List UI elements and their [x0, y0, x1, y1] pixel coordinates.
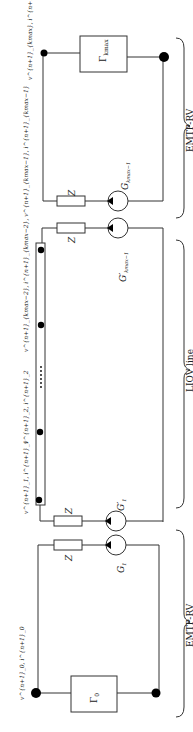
impedance-liov-bottom [54, 516, 82, 526]
node-label-liov-2: v^{n+1}_2, i^{n+1}_2 [22, 370, 30, 444]
bottom-emtp-circuit [38, 535, 159, 712]
node-liov-kmax2 [38, 322, 44, 328]
node-liov-1 [36, 497, 42, 503]
ellipsis-dots [40, 366, 42, 388]
node-label-liov-end: v^{n+1}_{kmax−2}, i^{n+1}_{kmax−2}, v^{n… [22, 85, 30, 352]
impedance-bottom [54, 540, 82, 550]
gamma-kmax-label: Γkmax [98, 39, 109, 62]
gamma-0-label: Γ0 [89, 693, 100, 703]
liov-circuit [36, 218, 163, 531]
source-label-liov-top: G′kmax−1 [118, 252, 129, 282]
z-label-top: Z [67, 189, 77, 197]
source-label-liov-bottom: G′1 [116, 499, 127, 511]
node-liov-2 [37, 429, 43, 435]
impedance-top [57, 196, 85, 206]
source-label-bottom: G1 [116, 563, 127, 573]
node-label-top: v^{n+1}_{kmax}, i^{n+1}_{kmax} [26, 0, 34, 80]
node-label-liov-1: v^{n+1}_1, i^{n+1}_1 [22, 441, 30, 515]
node-top-left [41, 50, 48, 57]
z-label-liov-bottom: Z [64, 507, 74, 515]
section-label-middle: LIOV line [185, 349, 193, 392]
node-top-right [159, 52, 169, 62]
section-label-bottom: EMTP-RV [185, 603, 193, 647]
node-liov-kmax1 [38, 247, 44, 253]
z-label-liov-top: Z [67, 236, 77, 244]
circuit-diagram: Γkmax Γ0 Z Z Z Z Gkmax−1 G′kmax−1 G′1 G1… [0, 0, 193, 732]
source-label-top: Gkmax−1 [120, 162, 131, 190]
node-label-bottom: v^{n+1}_0, i^{n+1}_0 [18, 626, 26, 700]
impedance-liov-top [57, 223, 85, 233]
z-label-bottom: Z [64, 554, 74, 562]
section-label-top: EMTP-RV [185, 108, 193, 152]
node-bottom-right [152, 689, 161, 698]
liov-line-strip [36, 243, 45, 505]
node-bottom-left [31, 688, 41, 698]
